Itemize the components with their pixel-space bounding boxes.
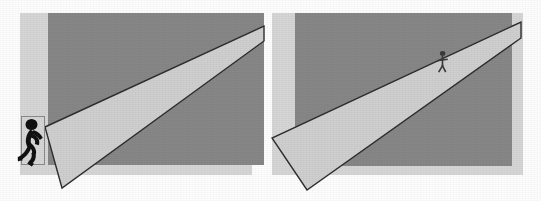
panel-left <box>0 0 271 201</box>
panel-left-illustration <box>0 0 271 201</box>
panel-right-illustration <box>271 0 541 201</box>
figure-root <box>0 0 541 201</box>
panel-right <box>271 0 541 201</box>
